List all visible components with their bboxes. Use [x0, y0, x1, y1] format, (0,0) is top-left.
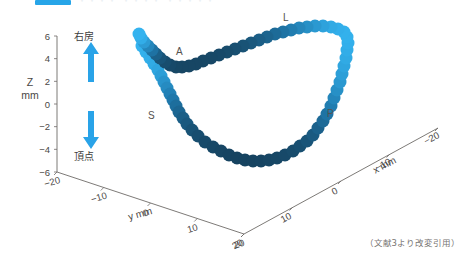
z-tick-label-5: −4 — [39, 144, 50, 155]
point-label-l: L — [283, 12, 289, 23]
y-axis-title: y mm — [127, 205, 154, 222]
point-label-p: P — [327, 108, 334, 119]
x-tick-label-4: −20 — [422, 129, 441, 146]
down-arrow-icon — [81, 110, 101, 150]
y-tick-label-3: 10 — [186, 221, 199, 234]
point-label-a: A — [176, 46, 183, 57]
z-tick-label-0: 6 — [45, 31, 50, 42]
figure-3d-loop-plot: ・・・・ ・・・・ ・・・・・ 6420−2−4−6Zmm−20−1001020… — [0, 0, 466, 258]
up-arrow-icon — [81, 41, 101, 83]
down-direction-label: 頂点 — [74, 148, 94, 163]
plot-canvas: 6420−2−4−6Zmm−20−1001020y mm20100−10−20x… — [0, 0, 466, 258]
z-tick-label-3: 0 — [45, 99, 50, 110]
z-tick-label-4: −2 — [39, 121, 50, 132]
x-tick-label-2: 0 — [329, 185, 339, 197]
x-tick-label-1: 10 — [279, 210, 294, 225]
topbar-ghost-text: ・・・・ ・・・・ ・・・・・ — [78, 0, 216, 6]
z-tick-label-2: 2 — [45, 76, 50, 87]
trajectory-point — [133, 28, 146, 41]
z-tick-label-6: −6 — [39, 167, 50, 178]
highlight-chip[interactable] — [35, 0, 71, 5]
top-cropped-toolbar: ・・・・ ・・・・ ・・・・・ — [0, 0, 466, 12]
z-tick-label-1: 4 — [45, 53, 50, 64]
y-tick-label-1: −10 — [90, 190, 109, 205]
source-caption: （文献3より改変引用） — [365, 236, 460, 248]
z-axis-title-line2: mm — [21, 89, 39, 101]
z-axis-title-line1: Z — [27, 76, 34, 88]
point-label-s: S — [148, 110, 155, 121]
trajectory-markers — [133, 20, 355, 168]
